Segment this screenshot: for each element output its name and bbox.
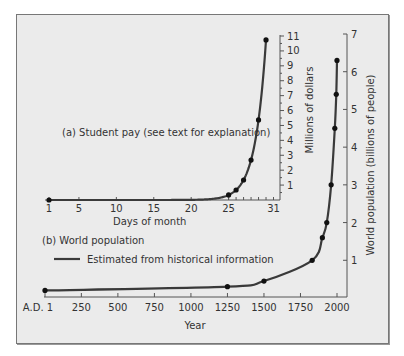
y-tick-label: 8: [287, 75, 293, 86]
x-tick-label: 1500: [251, 302, 276, 313]
data-point: [329, 182, 334, 187]
x-tick-label: 25: [222, 203, 235, 214]
data-point: [263, 37, 268, 42]
x-tick-label: 10: [110, 203, 123, 214]
y-tick-label: 4: [351, 142, 357, 153]
data-point: [332, 126, 337, 131]
x-tick-label: 750: [145, 302, 164, 313]
student-pay-axes: 1510152025311234567891011: [45, 31, 300, 215]
y-tick-label: 6: [287, 105, 293, 116]
x-tick-label: 1250: [215, 302, 240, 313]
x-tick-label: 1000: [178, 302, 203, 313]
y-tick-label: 2: [351, 218, 357, 229]
chart-canvas: 1510152025311234567891011 A.D. 125050075…: [0, 0, 404, 356]
data-point: [233, 187, 238, 192]
data-point: [42, 288, 47, 293]
x-tick-label: 2000: [324, 302, 349, 313]
y-tick-label: 4: [287, 135, 293, 146]
y-tick-label: 3: [287, 150, 293, 161]
world-population-ylabel: World population (billions of people): [365, 74, 376, 255]
x-tick-label: 15: [147, 203, 160, 214]
data-point: [261, 278, 266, 283]
y-tick-label: 1: [287, 180, 293, 191]
student-pay-line: [49, 40, 266, 200]
data-point: [334, 58, 339, 63]
world-population-xlabel: Year: [183, 320, 206, 331]
y-tick-label: 3: [351, 180, 357, 191]
data-point: [256, 117, 261, 122]
x-tick-label: 20: [185, 203, 198, 214]
data-point: [241, 177, 246, 182]
y-tick-label: 9: [287, 60, 293, 71]
y-tick-label: 6: [351, 67, 357, 78]
y-tick-label: 2: [287, 165, 293, 176]
x-tick-label: 5: [76, 203, 82, 214]
data-point: [320, 235, 325, 240]
x-tick-label: A.D. 1: [23, 302, 53, 313]
legend-label: Estimated from historical information: [87, 254, 274, 265]
x-tick-label: 250: [72, 302, 91, 313]
y-tick-label: 10: [287, 45, 300, 56]
x-tick-label: 1: [46, 203, 52, 214]
student-pay-xlabel: Days of month: [113, 216, 186, 227]
student-pay-series: [46, 37, 268, 202]
data-point: [46, 197, 51, 202]
y-tick-label: 5: [287, 120, 293, 131]
data-point: [225, 284, 230, 289]
y-tick-label: 1: [351, 255, 357, 266]
y-tick-label: 7: [287, 90, 293, 101]
student-pay-ylabel: Millions of dollars: [304, 67, 315, 154]
y-tick-label: 7: [351, 29, 357, 40]
student-pay-title: (a) Student pay (see text for explanatio…: [62, 127, 270, 138]
data-point: [226, 192, 231, 197]
data-point: [334, 92, 339, 97]
data-point: [248, 157, 253, 162]
x-tick-label: 1750: [288, 302, 313, 313]
x-tick-label: 31: [267, 203, 280, 214]
world-population-title: (b) World population: [42, 235, 144, 246]
y-tick-label: 5: [351, 104, 357, 115]
data-point: [324, 220, 329, 225]
data-point: [310, 258, 315, 263]
y-tick-label: 11: [287, 31, 300, 42]
x-tick-label: 500: [108, 302, 127, 313]
